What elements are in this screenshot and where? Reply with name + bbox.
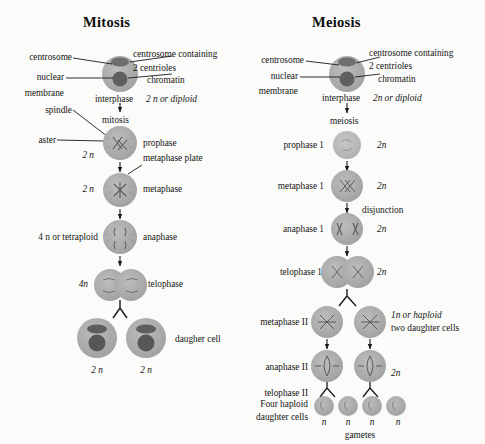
meiosis-ploidy-anaphase-2: 2n — [391, 368, 400, 379]
mitosis-ploidy-telophase: 4n — [50, 279, 88, 290]
meiosis-stage-prophase-1: prophase 1 — [240, 140, 324, 151]
meiosis-anaphase2-cell-right — [354, 350, 386, 382]
meiosis-stage-telophase-1: telophase 1 — [232, 267, 322, 278]
mitosis-daughter-cell-right — [126, 318, 166, 358]
meiosis-gamete-ploidy-4: n — [383, 417, 413, 428]
meiosis-note-two-daughter-cells: two daughter cells — [391, 323, 459, 334]
mitosis-daughter-cell-left — [77, 318, 117, 358]
meiosis-label-membrane: membrane — [232, 86, 298, 97]
meiosis-stage-interphase: interphase — [322, 93, 360, 104]
meiosis-metaphase2-cell-right — [354, 306, 386, 338]
meiosis-ploidy-anaphase-1: 2n — [377, 224, 386, 235]
mitosis-daughter-ploidy-right: 2 n — [126, 365, 166, 376]
meiosis-label-four-haploid: Four haploid — [222, 399, 308, 410]
meiosis-interphase-cell — [329, 56, 365, 92]
meiosis-label-disjunction: disjunction — [362, 205, 403, 216]
meiosis-prophase1-cell — [333, 131, 361, 159]
mitosis-label-centrosome-containing: centrosome containing — [133, 49, 217, 60]
mitosis-ploidy-interphase: 2 n or diploid — [146, 94, 197, 105]
meiosis-label-gametes: gametes — [330, 430, 390, 441]
mitosis-telophase-cell — [94, 269, 147, 301]
mitosis-label-two-centrioles: 2 centrioles — [133, 63, 176, 74]
meiosis-ploidy-metaphase-1: 2n — [377, 181, 386, 192]
mitosis-stage-mitosis: mitosis — [102, 115, 129, 126]
mitosis-stage-metaphase: metaphase — [143, 184, 182, 195]
meiosis-stage-metaphase-1: metaphase 1 — [232, 181, 324, 192]
mitosis-ploidy-prophase: 2 n — [48, 150, 94, 161]
mitosis-stage-prophase: prophase — [143, 138, 177, 149]
meiosis-metaphase2-cell-left — [311, 306, 343, 338]
meiosis-split-fork-2-left — [320, 382, 335, 397]
mitosis-stage-anaphase: anaphase — [143, 232, 177, 243]
meiosis-stage-anaphase-1: anaphase 1 — [236, 224, 324, 235]
mitosis-daughter-ploidy-left: 2 n — [77, 365, 117, 376]
meiosis-anaphase2-cell-left — [311, 350, 343, 382]
meiosis-ploidy-interphase: 2n or diploid — [373, 93, 422, 104]
mitosis-ploidy-anaphase: 4 n or tetraploid — [0, 232, 98, 243]
mitosis-label-spindle: spindle — [0, 105, 72, 116]
meiosis-ploidy-metaphase-2: 1n or haploid — [391, 310, 442, 321]
mitosis-ploidy-metaphase: 2 n — [48, 184, 94, 195]
meiosis-label-daughter-cells: daughter cells — [222, 412, 308, 423]
mitosis-prophase-cell — [103, 126, 137, 160]
meiosis-stage-meiosis: meiosis — [330, 116, 358, 127]
mitosis-stage-telophase: telophase — [148, 279, 183, 290]
meiosis-ploidy-prophase-1: 2n — [377, 140, 386, 151]
meiosis-split-fork-2-right — [363, 382, 378, 397]
meiosis-stage-metaphase-2: metaphase II — [222, 317, 308, 328]
mitosis-label-nuclear: nuclear — [0, 72, 64, 83]
mitosis-label-membrane: membrane — [0, 88, 64, 99]
meiosis-anaphase1-cell — [331, 213, 363, 245]
mitosis-label-metaphase-plate: metaphase plate — [143, 153, 203, 164]
meiosis-label-centrosome-containing: centrosome containing — [369, 48, 453, 59]
mitosis-title: Mitosis — [83, 14, 130, 31]
mitosis-label-aster: aster — [0, 135, 56, 146]
meiosis-telophase1-cell — [321, 256, 374, 288]
mitosis-label-chromatin: chromatin — [147, 75, 185, 86]
mitosis-cleavage-fork — [113, 300, 127, 318]
meiosis-gamete-cells — [314, 396, 406, 416]
diagram-canvas — [0, 0, 485, 444]
mitosis-metaphase-cell — [103, 173, 137, 207]
meiosis-metaphase1-cell — [331, 170, 363, 202]
meiosis-split-fork-1 — [339, 289, 356, 306]
meiosis-stage-anaphase-2: anaphase II — [222, 362, 308, 373]
mitosis-anaphase-cell — [103, 220, 137, 254]
diagram-page: Mitosis Meiosis centrosome nuclear membr… — [0, 0, 485, 444]
meiosis-stage-telophase-2: telophase II — [222, 388, 308, 399]
meiosis-label-two-centrioles: 2 centrioles — [369, 61, 412, 72]
meiosis-label-nuclear: nuclear — [238, 71, 298, 82]
meiosis-title: Meiosis — [312, 14, 361, 31]
meiosis-label-centrosome: centrosome — [232, 55, 304, 66]
mitosis-stage-interphase: interphase — [95, 94, 133, 105]
mitosis-stage-daughter-cell: daugher cell — [175, 334, 221, 345]
mitosis-label-centrosome: centrosome — [0, 52, 72, 63]
meiosis-label-chromatin: chromatin — [378, 74, 416, 85]
meiosis-ploidy-telophase-1: 2n — [377, 267, 386, 278]
